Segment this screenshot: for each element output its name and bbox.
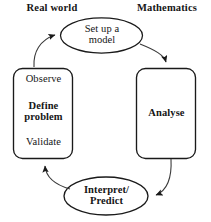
analyse-label: Analyse [138,107,195,118]
heading-mathematics: Mathematics [126,2,208,13]
arrow-setup-to-analyse [140,44,166,62]
setup-model-label: Set up a model [64,23,140,46]
arrow-define-to-setup [34,35,55,67]
interpret-predict-label: Interpret/ Predict [68,184,145,207]
observe-label: Observe [15,73,72,84]
validate-label: Validate [15,136,72,147]
heading-real-world: Real world [14,2,90,13]
define-problem-label: Define problem [15,100,72,123]
arrow-analyse-to-interpret [156,159,171,195]
arrow-interpret-to-define [45,166,70,189]
modelling-cycle-diagram: Real world Mathematics Set up a model Ob… [0,0,211,222]
